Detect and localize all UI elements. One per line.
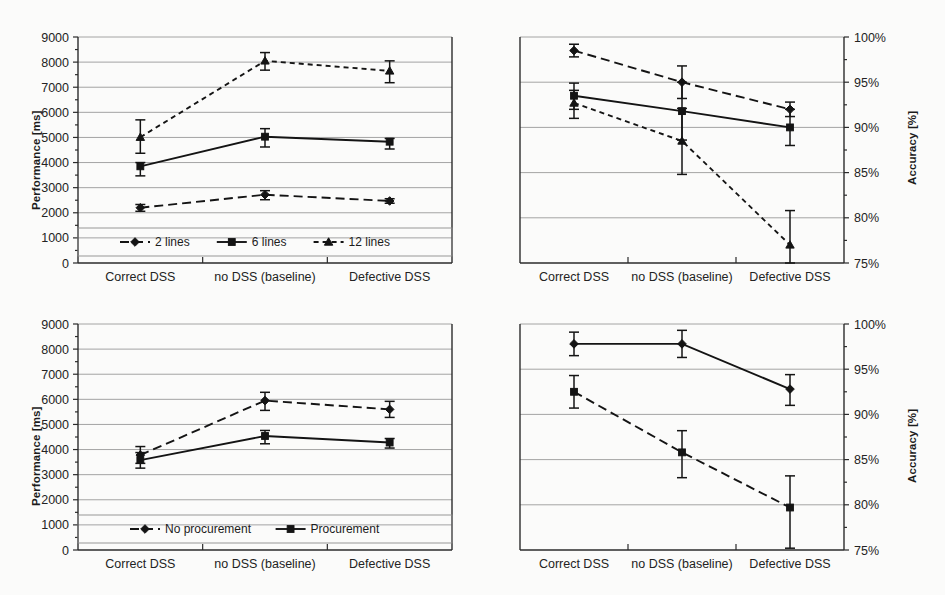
x-axis-category-label: no DSS (baseline): [631, 270, 732, 284]
data-point-square-marker: [787, 124, 794, 131]
data-point-square-marker: [228, 239, 235, 246]
data-point-diamond-marker: [141, 525, 150, 534]
chart-bottom-left: 0100020003000400050006000700080009000Cor…: [0, 298, 472, 595]
y-axis-tick-label: 100%: [854, 31, 886, 45]
y-axis-tick-label: 0: [62, 257, 69, 271]
y-axis-tick-label: 1000: [41, 518, 69, 532]
y-axis-tick-label: 100%: [854, 318, 886, 332]
data-point-diamond-marker: [786, 385, 795, 394]
y-axis-tick-label: 9000: [41, 318, 69, 332]
error-bar: [785, 211, 795, 263]
panel-top-right-accuracy: Accuracy [%] 75%80%85%90%95%100%Correct …: [472, 0, 945, 298]
y-axis-tick-label: 3000: [41, 468, 69, 482]
y-axis-tick-label: 8000: [41, 343, 69, 357]
legend-label: Procurement: [311, 522, 380, 536]
panel-bottom-right-accuracy: Accuracy [%] 75%80%85%90%95%100%Correct …: [472, 298, 945, 595]
series-line: [140, 61, 389, 137]
data-point-triangle-marker: [136, 133, 144, 140]
y-axis-tick-label: 75%: [854, 257, 879, 271]
y-axis-tick-label: 2000: [41, 206, 69, 220]
data-point-square-marker: [137, 457, 144, 464]
panel-top-left-performance: Performance [ms] 01000200030004000500060…: [0, 0, 472, 298]
data-point-triangle-marker: [261, 57, 269, 64]
data-point-diamond-marker: [385, 197, 394, 206]
data-point-square-marker: [386, 439, 393, 446]
x-axis-category-label: Correct DSS: [539, 557, 609, 571]
data-point-square-marker: [571, 388, 578, 395]
chart-legend: No procurementProcurement: [78, 515, 452, 543]
data-point-diamond-marker: [570, 46, 579, 55]
panel-bottom-left-performance: Performance [ms] 01000200030004000500060…: [0, 298, 472, 595]
chart-legend: 2 lines6 lines12 lines: [78, 228, 452, 256]
data-point-square-marker: [262, 133, 269, 140]
x-axis-category-label: Defective DSS: [749, 270, 830, 284]
chart-top-left: 0100020003000400050006000700080009000Cor…: [0, 0, 472, 298]
data-point-diamond-marker: [385, 405, 394, 414]
series-no-procurement: [569, 376, 795, 549]
legend-label: 6 lines: [252, 235, 287, 249]
series-2-lines: [135, 190, 394, 212]
y-axis-tick-label: 5000: [41, 131, 69, 145]
data-point-triangle-marker: [385, 67, 393, 74]
x-axis-category-label: Correct DSS: [105, 270, 175, 284]
y-axis-tick-label: 3000: [41, 181, 69, 195]
y-axis-tick-label: 80%: [854, 211, 879, 225]
error-bar: [785, 476, 795, 548]
y-axis-tick-label: 8000: [41, 56, 69, 70]
data-point-diamond-marker: [261, 396, 270, 405]
x-axis-category-label: no DSS (baseline): [214, 270, 315, 284]
x-axis-category-label: Defective DSS: [349, 557, 430, 571]
data-point-square-marker: [679, 449, 686, 456]
chart-top-right: 75%80%85%90%95%100%Correct DSSno DSS (ba…: [472, 0, 945, 298]
data-point-diamond-marker: [570, 340, 579, 349]
data-point-square-marker: [287, 526, 294, 533]
data-point-diamond-marker: [131, 238, 140, 247]
y-axis-tick-label: 80%: [854, 498, 879, 512]
data-point-triangle-marker: [786, 241, 794, 248]
y-axis-tick-label: 90%: [854, 121, 879, 135]
x-axis-category-label: Correct DSS: [539, 270, 609, 284]
chart-bottom-right: 75%80%85%90%95%100%Correct DSSno DSS (ba…: [472, 298, 945, 595]
data-point-triangle-marker: [570, 99, 578, 106]
y-axis-tick-label: 85%: [854, 166, 879, 180]
x-axis-category-label: no DSS (baseline): [214, 557, 315, 571]
x-axis-category-label: no DSS (baseline): [631, 557, 732, 571]
y-axis-tick-label: 6000: [41, 106, 69, 120]
y-axis-tick-label: 85%: [854, 453, 879, 467]
y-axis-tick-label: 4000: [41, 156, 69, 170]
data-point-diamond-marker: [261, 190, 270, 199]
y-axis-tick-label: 4000: [41, 443, 69, 457]
series-6-lines: [135, 129, 394, 176]
y-axis-tick-label: 7000: [41, 368, 69, 382]
series-procurement: [569, 330, 795, 405]
data-point-square-marker: [137, 163, 144, 170]
figure-panel-grid: Performance [ms] 01000200030004000500060…: [0, 0, 945, 595]
x-axis-category-label: Defective DSS: [749, 557, 830, 571]
y-axis-tick-label: 95%: [854, 76, 879, 90]
y-axis-tick-label: 6000: [41, 393, 69, 407]
x-axis-category-label: Defective DSS: [349, 270, 430, 284]
series-12-lines: [569, 90, 795, 263]
y-axis-tick-label: 90%: [854, 408, 879, 422]
x-axis-category-label: Correct DSS: [105, 557, 175, 571]
data-point-square-marker: [787, 504, 794, 511]
y-axis-tick-label: 95%: [854, 363, 879, 377]
data-point-square-marker: [262, 433, 269, 440]
data-point-square-marker: [386, 138, 393, 145]
y-axis-tick-label: 1000: [41, 231, 69, 245]
y-axis-tick-label: 5000: [41, 418, 69, 432]
y-axis-tick-label: 0: [62, 544, 69, 558]
legend-label: 2 lines: [155, 235, 190, 249]
y-axis-tick-label: 7000: [41, 81, 69, 95]
legend-label: No procurement: [165, 522, 252, 536]
y-axis-tick-label: 9000: [41, 31, 69, 45]
y-axis-tick-label: 2000: [41, 493, 69, 507]
y-axis-tick-label: 75%: [854, 544, 879, 558]
legend-label: 12 lines: [349, 235, 390, 249]
data-point-diamond-marker: [678, 340, 687, 349]
